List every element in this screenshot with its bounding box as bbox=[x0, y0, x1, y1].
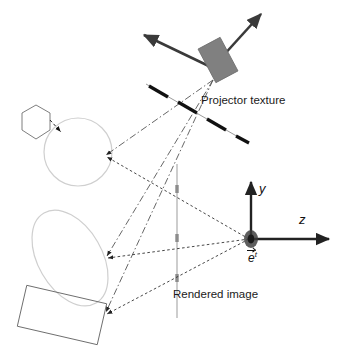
eye-point-label: et bbox=[248, 250, 257, 265]
eye-point-core bbox=[248, 235, 254, 244]
axis-z-label: z bbox=[299, 212, 306, 227]
coordinate-axes bbox=[244, 182, 329, 248]
diagram-svg bbox=[0, 0, 346, 362]
view-ray-circle bbox=[107, 157, 249, 239]
rectangle-shape bbox=[17, 285, 106, 344]
projector-assembly bbox=[144, 14, 261, 83]
projector-rays bbox=[106, 80, 213, 312]
view-ray-rect bbox=[107, 239, 249, 314]
eye-point-vector-symbol: e bbox=[248, 251, 255, 265]
rendered-image-label: Rendered image bbox=[173, 288, 258, 300]
ellipse-shape bbox=[16, 197, 123, 319]
scene-objects bbox=[16, 105, 123, 345]
hexagon-shape bbox=[22, 105, 50, 139]
eye-point-superscript: t bbox=[255, 250, 257, 259]
circle-shape bbox=[44, 118, 112, 186]
axis-y-label: y bbox=[259, 181, 266, 196]
projector-ray-rect bbox=[106, 80, 213, 312]
projector-ray-ellipse bbox=[107, 80, 213, 256]
projector-texture-label: Projector texture bbox=[201, 94, 285, 106]
diagram-canvas: Projector texture Rendered image y z et bbox=[0, 0, 346, 362]
projector-arrow-up bbox=[222, 14, 261, 57]
